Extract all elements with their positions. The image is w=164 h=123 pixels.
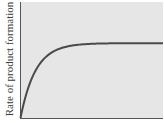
chart-svg <box>0 0 163 123</box>
saturation-curve <box>21 43 164 118</box>
